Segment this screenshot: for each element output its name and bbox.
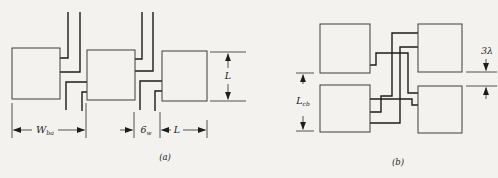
- label-l-vertical: L: [224, 70, 231, 81]
- pad-square-a2: [87, 50, 135, 100]
- pad-square-a1: [12, 48, 60, 99]
- pad-square-b3: [320, 85, 370, 132]
- figure-page: Wba6wLL(a)Lcb3λ(b): [0, 0, 498, 178]
- pad-square-b4: [418, 86, 462, 133]
- pad-square-a3: [162, 51, 207, 101]
- caption-a: (a): [159, 152, 171, 162]
- label-l-horizontal: L: [173, 124, 180, 135]
- pad-square-b2: [418, 24, 462, 72]
- vlsi-pad-routing-figure: Wba6wLL(a)Lcb3λ(b): [0, 0, 498, 178]
- label-3-lambda: 3λ: [481, 45, 493, 56]
- caption-b: (b): [392, 157, 404, 167]
- pad-square-b1: [320, 24, 370, 73]
